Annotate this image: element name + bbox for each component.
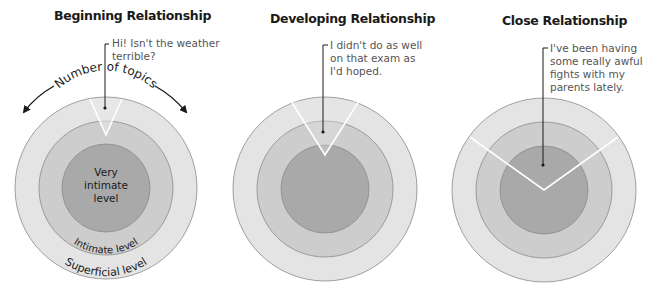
circle-group-close xyxy=(452,48,636,282)
label-very-intimate-line1: Very xyxy=(94,166,117,178)
circles-svg: Number of topics Intimate level Superfic… xyxy=(0,0,670,300)
label-number-of-topics: Number of topics xyxy=(52,59,161,91)
callout-dot xyxy=(321,130,324,133)
arrow-left-icon xyxy=(24,86,54,112)
circle-group-developing xyxy=(233,45,417,281)
label-very-intimate-line3: level xyxy=(94,192,119,204)
inner-ring-very-intimate xyxy=(281,145,369,233)
circle-group-beginning: Number of topics Intimate level Superfic… xyxy=(15,44,197,279)
label-very-intimate-line2: intimate xyxy=(84,179,128,191)
diagram-canvas: Beginning Relationship Developing Relati… xyxy=(0,0,670,300)
callout-dot xyxy=(541,163,544,166)
arrow-right-icon xyxy=(155,86,186,112)
callout-dot xyxy=(103,106,106,109)
